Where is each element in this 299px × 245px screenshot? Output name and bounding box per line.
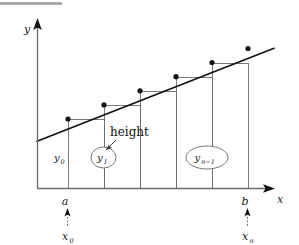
sample-point (65, 116, 70, 121)
sample-point (137, 88, 142, 93)
sample-points (65, 46, 250, 122)
riemann-bar (212, 63, 248, 188)
height-annotation-label: height (110, 125, 149, 139)
x-axis-label: x (277, 193, 284, 206)
xn-pointer-arrowhead (244, 208, 250, 217)
riemann-sum-figure: y x a b x 0 x n y 0 y 1 (0, 0, 299, 245)
yn1-label-letter: y (194, 152, 201, 163)
riemann-bar (140, 91, 176, 188)
x0-label-subscript: 0 (70, 237, 74, 245)
y1-label-letter: y (96, 152, 103, 163)
sample-point (209, 60, 214, 65)
y1-label-subscript: 1 (104, 158, 108, 166)
height-annotation: height (106, 125, 149, 150)
y0-label: y 0 (53, 152, 65, 166)
x0-pointer-arrowhead (64, 208, 70, 217)
riemann-bar (176, 77, 212, 188)
xn-label: x n (242, 230, 254, 245)
y-axis-label: y (23, 23, 31, 36)
xn-label-subscript: n (250, 237, 254, 245)
endpoint-pointers (64, 208, 250, 226)
tick-label-b: b (241, 195, 248, 208)
sample-point (245, 46, 250, 51)
function-line (37, 48, 274, 141)
tick-label-a: a (62, 195, 69, 208)
diagram-canvas: y x a b x 0 x n y 0 y 1 (0, 0, 299, 245)
xn-label-letter: x (242, 230, 249, 243)
yn1-label-subscript: n−1 (201, 158, 215, 166)
y1-callout: y 1 (91, 147, 116, 168)
riemann-rectangles (68, 63, 248, 188)
x0-label: x 0 (62, 230, 74, 245)
y0-label-letter: y (53, 152, 60, 163)
sample-point (173, 74, 178, 79)
yn1-callout: y n−1 (186, 146, 228, 169)
height-annotation-leader (109, 140, 116, 147)
sample-point (101, 102, 106, 107)
y0-label-subscript: 0 (61, 158, 65, 166)
x0-label-letter: x (62, 230, 69, 243)
